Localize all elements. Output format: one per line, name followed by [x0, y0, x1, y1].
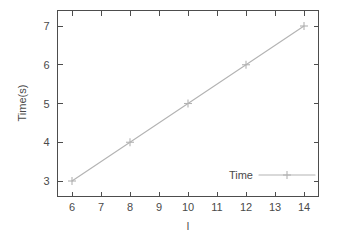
x-tick-label-9: 9: [156, 201, 162, 213]
x-tick-label-12: 12: [240, 201, 252, 213]
x-tick-label-11: 11: [211, 201, 222, 213]
x-tick-label-8: 8: [127, 201, 133, 213]
y-tick-label-7: 7: [43, 20, 49, 32]
x-tick-label-10: 10: [182, 201, 194, 213]
legend-label-time: Time: [229, 169, 253, 181]
x-tick-label-7: 7: [98, 201, 104, 213]
chart-figure: 67891011121314 34567 l Time(s) Time: [0, 0, 341, 244]
x-tick-label-14: 14: [298, 201, 310, 213]
y-tick-label-3: 3: [43, 175, 49, 187]
y-tick-label-4: 4: [43, 136, 49, 148]
x-axis-title: l: [187, 220, 189, 232]
y-tick-label-5: 5: [43, 98, 49, 110]
line-chart: 67891011121314 34567 l Time(s) Time: [0, 0, 341, 244]
y-tick-label-6: 6: [43, 59, 49, 71]
x-tick-label-13: 13: [269, 201, 281, 213]
y-axis-title: Time(s): [16, 85, 28, 122]
x-tick-label-6: 6: [69, 201, 75, 213]
chart-background: [0, 0, 341, 244]
